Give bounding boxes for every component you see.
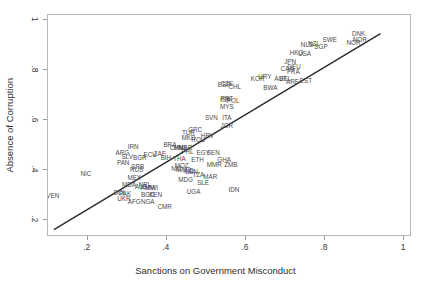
point-label: ZMB (224, 162, 237, 168)
point-label: SVN (205, 115, 218, 121)
x-tick (245, 236, 246, 240)
point-label: JOR (221, 123, 234, 129)
point-label: URY (258, 74, 271, 80)
y-tick-label: .4 (30, 165, 40, 172)
y-tick (43, 69, 47, 70)
point-label: MEX (127, 174, 141, 180)
x-tick-label: 1 (401, 242, 406, 252)
x-tick-label: .8 (320, 242, 327, 252)
point-label: MDG (178, 176, 193, 182)
y-tick (43, 169, 47, 170)
point-label: BIH (161, 155, 172, 161)
x-tick-label: .4 (162, 242, 169, 252)
point-label: CMR (158, 203, 172, 209)
point-label: RUS (130, 166, 143, 172)
plot-area: VENNICARGIRNSLVBGRPANSRBRUSMEXMDANPLALBK… (48, 15, 410, 235)
y-tick (43, 219, 47, 220)
point-label: NIC (81, 171, 92, 177)
point-label: CHL (228, 83, 241, 89)
x-tick (166, 236, 167, 240)
point-label: VEN (48, 193, 59, 199)
point-label: EST (300, 78, 312, 84)
point-label: IRN (128, 144, 139, 150)
plot-frame: VENNICARGIRNSLVBGRPANSRBRUSMEXMDANPLALBK… (47, 14, 411, 236)
point-label: BWA (263, 85, 277, 91)
y-tick-label: 1 (30, 17, 40, 22)
y-axis-title: Absence of Corruption (4, 14, 15, 236)
x-tick (87, 236, 88, 240)
y-tick-label: .6 (30, 115, 40, 122)
x-tick-label: .6 (241, 242, 248, 252)
point-label: MDA (122, 182, 136, 188)
point-label: PRT (221, 96, 233, 102)
scatter-chart: Absence of Corruption VENNICARGIRNSLVBGR… (0, 0, 431, 295)
point-label: IDN (229, 187, 240, 193)
y-tick (43, 19, 47, 20)
point-label: MAR (203, 174, 217, 180)
y-tick (43, 119, 47, 120)
point-label: JPN (284, 59, 296, 65)
point-label: ITA (222, 115, 231, 121)
x-tick (403, 236, 404, 240)
x-tick (324, 236, 325, 240)
point-label: ROU (191, 137, 205, 143)
x-axis-title: Sanctions on Government Misconduct (0, 265, 431, 276)
point-label: PHL (181, 149, 193, 155)
point-label: SGP (314, 44, 327, 50)
y-tick-label: .8 (30, 65, 40, 72)
point-label: USA (298, 51, 311, 57)
y-tick-label: .2 (30, 215, 40, 222)
point-label: PAN (117, 160, 129, 166)
point-label: SLE (197, 179, 209, 185)
point-label: AFG (128, 199, 141, 205)
point-label: NGA (141, 198, 155, 204)
point-label: MYS (220, 103, 234, 109)
point-label: FRA (287, 69, 300, 75)
x-tick-label: .2 (83, 242, 90, 252)
point-label: NOR (353, 37, 367, 43)
point-label: DNK (352, 31, 365, 37)
point-label: UGA (187, 188, 201, 194)
point-label: ARE (286, 79, 299, 85)
point-label: SWE (323, 37, 337, 43)
point-label: ETH (191, 157, 204, 163)
